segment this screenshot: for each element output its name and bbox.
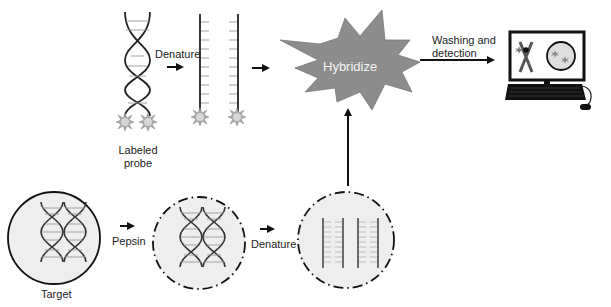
labeled-probe-line2: probe [117,157,159,170]
computer-icon [505,32,591,110]
pepsin-treated-cell-icon [153,197,245,289]
washing-detection-label: Washing and detection [432,34,496,60]
washing-line1: Washing and [432,34,496,47]
denatured-cell-icon [298,192,394,288]
labeled-probe-label: Labeled probe [117,144,159,170]
target-cell-icon [8,192,100,284]
denature-label-target: Denature [251,238,296,251]
labeled-probe-line1: Labeled [117,144,159,157]
probe-helix-icon [116,12,157,131]
pepsin-label: Pepsin [112,235,146,248]
denature-label-probe: Denature [155,48,200,61]
washing-line2: detection [432,47,496,60]
target-label: Target [41,288,72,301]
single-strand-probe-icon [191,14,246,126]
hybridize-label: Hybridize [323,59,377,74]
